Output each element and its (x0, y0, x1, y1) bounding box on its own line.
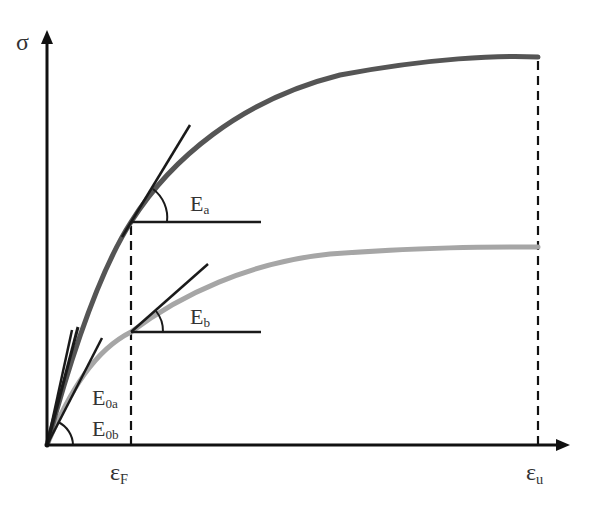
e-symbol: E (190, 191, 203, 216)
stress-strain-diagram (0, 0, 600, 517)
label-e0a: E0a (92, 387, 118, 411)
initial-tangent-e0a (47, 330, 72, 445)
curve-a (47, 56, 538, 445)
tangent-line-ea (122, 125, 190, 237)
label-ea: Ea (190, 193, 209, 217)
curve-b (47, 247, 538, 445)
e-symbol: E (92, 385, 105, 410)
subscript-0a: 0a (105, 396, 117, 411)
y-axis-arrow-icon (41, 30, 53, 44)
subscript-a: a (203, 202, 209, 217)
y-axis-label-sigma: σ (16, 30, 29, 54)
x-tick-epsilon-f: εF (110, 460, 128, 486)
angle-arc-ea (153, 189, 167, 222)
e-symbol: E (190, 304, 203, 329)
e-symbol: E (92, 416, 105, 441)
x-tick-epsilon-u: εu (526, 460, 543, 486)
subscript-b: b (203, 315, 210, 330)
label-eb: Eb (190, 306, 210, 330)
label-e0b: E0b (92, 418, 119, 442)
subscript-0b: 0b (105, 427, 118, 442)
subscript-f: F (120, 471, 128, 487)
epsilon-symbol: ε (526, 459, 536, 485)
angle-arc-origin (58, 422, 73, 445)
x-axis-arrow-icon (556, 439, 570, 451)
subscript-u: u (536, 471, 543, 487)
epsilon-symbol: ε (110, 459, 120, 485)
